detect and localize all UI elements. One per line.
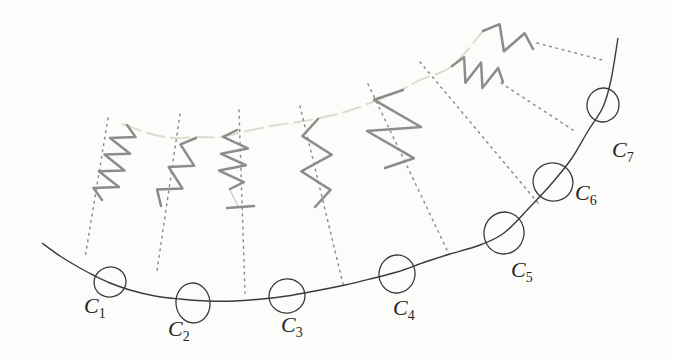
normal-line-8 [537,43,606,61]
spring-curve-figure: C1 C2 C3 C4 C5 C6 C7 [0,0,673,360]
spring-3-end-bar [227,206,254,208]
label-c6: C6 [575,180,597,208]
normal-line-5 [368,84,448,252]
label-c2: C2 [168,316,190,344]
spring-2 [157,138,196,206]
label-c3: C3 [281,312,303,340]
circles-layer [91,85,622,324]
upper-chain [122,31,483,138]
normal-line-6 [420,62,538,203]
normal-line-7 [501,83,576,132]
figure-page: C1 C2 C3 C4 C5 C6 C7 [0,0,673,360]
contact-circle-c7 [584,85,621,124]
spring-3 [219,130,248,189]
label-c1: C1 [84,293,106,321]
curve-layer [42,38,618,301]
labels-layer: C1 C2 C3 C4 C5 C6 C7 [84,137,634,344]
spring-4 [301,119,332,207]
label-c5: C5 [511,257,533,285]
spring-7 [483,24,533,51]
label-c4: C4 [393,295,415,323]
chain-layer [122,31,483,138]
spring-6 [452,57,503,88]
spring-5 [367,90,421,168]
lower-curve [42,38,618,301]
label-c7: C7 [612,137,634,165]
spring-3-link [230,190,238,206]
contact-circle-c4 [377,253,418,296]
normal-line-3 [239,110,245,293]
spring-1 [93,125,135,200]
dotted-normals-layer [85,43,606,293]
